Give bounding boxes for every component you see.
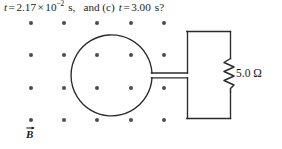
b-field-label: B	[26, 127, 42, 145]
resistor-symbol	[224, 59, 234, 93]
circular-conducting-loop	[71, 35, 152, 116]
resistor-value-label: 5.0 Ω	[236, 66, 262, 80]
figure-canvas: t=2.17×10−2s,and (c)t=3.00s? B 5.0 Ω	[0, 0, 282, 149]
